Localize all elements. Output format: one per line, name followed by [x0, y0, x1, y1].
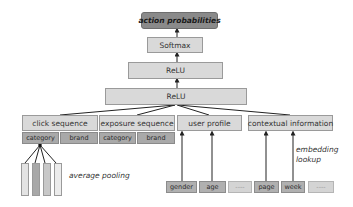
input-user-profile: user profile [177, 115, 242, 131]
feature-ellipsis-1: ---- [228, 181, 252, 193]
layer-relu-bottom: ReLU [105, 88, 247, 105]
input-contextual-information: contextual information [248, 115, 333, 131]
layer-softmax: Softmax [147, 37, 203, 53]
feature-age: age [199, 181, 226, 193]
exposure-category: category [99, 132, 136, 144]
pool-bar-3 [43, 163, 51, 196]
label-lookup: lookup [296, 155, 321, 164]
feature-gender: gender [166, 181, 197, 193]
output-action-probabilities: action probabilities [141, 12, 218, 29]
pool-bar-4 [54, 163, 62, 196]
layer-relu-top: ReLU [128, 62, 223, 79]
exposure-brand: brand [137, 132, 175, 144]
input-exposure-sequence: exposure sequence [99, 115, 175, 131]
feature-ellipsis-2: ---- [308, 181, 334, 193]
click-brand: brand [60, 132, 98, 144]
pool-bar-1 [21, 163, 29, 196]
label-average-pooling: average pooling [69, 171, 130, 180]
input-click-sequence: click sequence [22, 115, 98, 131]
label-embedding: embedding [296, 145, 338, 154]
feature-week: week [281, 181, 305, 193]
click-category: category [22, 132, 59, 144]
pool-bar-2 [32, 163, 40, 196]
feature-page: page [254, 181, 279, 193]
